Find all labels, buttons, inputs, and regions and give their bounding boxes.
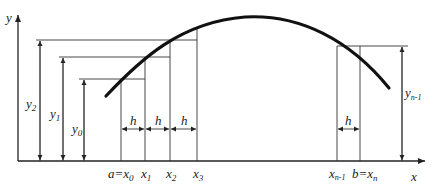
label-y0: y0: [70, 121, 83, 138]
x-axis-label: x: [410, 169, 417, 184]
label-yn1: yn-1: [403, 85, 421, 102]
label-x0: a=x0: [108, 166, 134, 183]
diagram-svg: y x y2 y1 y0 yn-1 h h h h a=x0 x1 x2 x3 …: [0, 0, 435, 189]
diagram-canvas: y x y2 y1 y0 yn-1 h h h h a=x0 x1 x2 x3 …: [0, 0, 435, 189]
label-x2: x2: [165, 166, 177, 183]
y-axis-label: y: [4, 10, 12, 25]
label-x3: x3: [192, 166, 204, 183]
label-y1: y1: [48, 106, 60, 123]
label-y2: y2: [24, 96, 37, 113]
step-label-1: h: [130, 113, 137, 128]
label-xn1: xn-1: [328, 166, 345, 182]
label-x1: x1: [140, 166, 151, 183]
step-label-2: h: [155, 113, 162, 128]
step-label-3: h: [181, 113, 188, 128]
step-label-n: h: [345, 113, 352, 128]
level-lines: [36, 40, 408, 79]
ordinate-arrows: [40, 41, 402, 161]
function-curve: [106, 17, 389, 96]
label-xn: b=xn: [352, 166, 378, 183]
